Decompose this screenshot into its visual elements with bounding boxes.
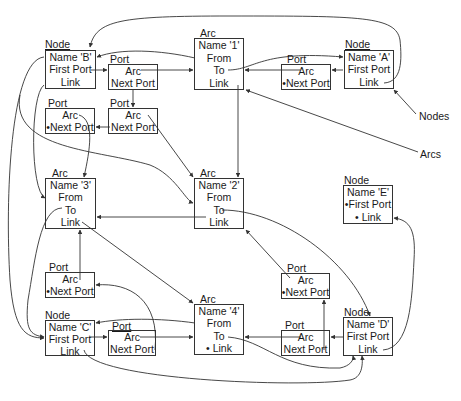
- arc-2-to: To: [213, 204, 224, 216]
- node-a-link: Link: [359, 76, 378, 88]
- port-b2-box[interactable]: Arc Next Port: [108, 108, 158, 134]
- arc-3-to: To: [65, 204, 76, 216]
- node-e-name: Name 'E': [347, 186, 389, 198]
- port-a1-box[interactable]: Arc •Next Port: [281, 64, 331, 90]
- node-c-box[interactable]: Name 'C' First Port Link: [45, 320, 95, 356]
- node-e-link: • Link: [355, 211, 381, 223]
- node-d-link: Link: [358, 343, 377, 355]
- node-d-name: Name 'D': [347, 318, 390, 330]
- node-b-title: Node: [45, 39, 70, 50]
- port-d1-box[interactable]: Arc Next Port: [281, 330, 330, 356]
- port-b3-arc: Arc: [62, 109, 78, 121]
- node-b-name: Name 'B': [50, 51, 92, 63]
- arc-2-name: Name '2': [199, 179, 240, 191]
- node-b-link: Link: [61, 76, 80, 88]
- diagram-canvas: Node Name 'B' First Port Link Port Arc N…: [0, 0, 461, 401]
- port-c2-box[interactable]: Arc •Next Port: [45, 272, 95, 298]
- node-a-title: Node: [345, 39, 370, 50]
- port-b1-arc: Arc: [125, 65, 141, 77]
- port-b1-next-port: Next Port: [111, 77, 155, 89]
- port-c1-box[interactable]: Arc Next Port: [108, 330, 156, 356]
- arc-3-name: Name '3': [50, 179, 91, 191]
- port-c1-next-port: Next Port: [110, 343, 154, 355]
- arc-4-name: Name '4': [199, 305, 240, 317]
- port-d1-arc: Arc: [298, 331, 314, 343]
- node-b-box[interactable]: Name 'B' First Port Link: [45, 50, 96, 89]
- node-d-first-port: First Port: [347, 330, 390, 342]
- port-c2-arc: Arc: [62, 273, 78, 285]
- port-b3-next-port: •Next Port: [46, 121, 93, 133]
- port-b3-box[interactable]: Arc •Next Port: [45, 108, 95, 134]
- node-e-box[interactable]: Name 'E' •First Port • Link: [343, 185, 393, 224]
- node-c-first-port: First Port: [49, 333, 92, 345]
- port-b2-next-port: Next Port: [111, 121, 155, 133]
- node-e-first-port: •First Port: [345, 198, 391, 210]
- arc-2-link: Link: [209, 216, 228, 228]
- port-a1-next-port: •Next Port: [282, 77, 329, 89]
- arc-4-box[interactable]: Name '4' From To • Link: [194, 304, 244, 355]
- arc-2-box[interactable]: Name '2' From To Link: [194, 178, 244, 229]
- arc-2-from: From: [207, 191, 232, 203]
- port-a1-arc: Arc: [298, 65, 314, 77]
- port-d2-arc: Arc: [298, 274, 314, 286]
- arc-4-link: • Link: [206, 342, 232, 354]
- arc-1-to: To: [213, 64, 224, 76]
- arc-1-link: Link: [209, 77, 228, 89]
- node-c-name: Name 'C': [49, 321, 92, 333]
- arc-3-link: Link: [61, 216, 80, 228]
- arcs-label: Arcs: [420, 149, 441, 160]
- node-c-link: Link: [60, 345, 79, 357]
- port-c1-arc: Arc: [124, 331, 140, 343]
- arc-3-from: From: [58, 191, 83, 203]
- port-d2-next-port: •Next Port: [282, 286, 329, 298]
- port-b1-box[interactable]: Arc Next Port: [108, 64, 158, 90]
- node-a-first-port: First Port: [348, 63, 391, 75]
- node-a-box[interactable]: Name 'A' First Port Link: [344, 50, 394, 89]
- arc-1-from: From: [207, 52, 232, 64]
- node-a-name: Name 'A': [348, 51, 390, 63]
- port-d2-box[interactable]: Arc •Next Port: [281, 273, 330, 299]
- arc-4-to: To: [213, 330, 224, 342]
- arc-3-box[interactable]: Name '3' From To Link: [45, 178, 96, 229]
- port-c2-next-port: •Next Port: [46, 285, 93, 297]
- node-d-box[interactable]: Name 'D' First Port Link: [343, 317, 393, 356]
- arc-1-name: Name '1': [199, 39, 240, 51]
- port-b2-arc: Arc: [125, 109, 141, 121]
- arc-1-box[interactable]: Name '1' From To Link: [194, 38, 244, 90]
- arc-4-from: From: [207, 317, 232, 329]
- node-b-first-port: First Port: [49, 63, 92, 75]
- nodes-label: Nodes: [419, 111, 449, 122]
- port-d1-next-port: Next Port: [284, 343, 328, 355]
